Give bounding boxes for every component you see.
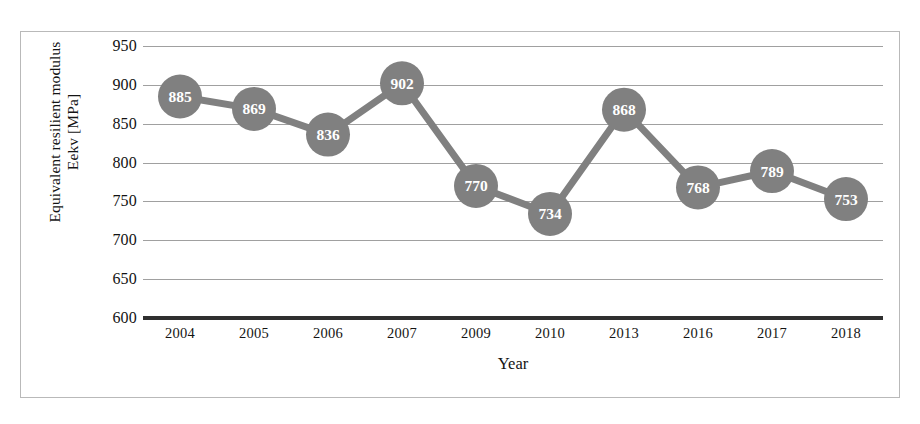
data-point-label: 734 <box>538 205 562 222</box>
y-axis-title: Equivalent resilient modulus Eekv [MPa] <box>42 7 86 257</box>
data-point-label: 869 <box>242 100 266 117</box>
plot-area: 885869836902770734868768789753 <box>143 46 883 318</box>
x-tick-label: 2004 <box>145 325 215 342</box>
y-axis-title-line2: Eekv [MPa] <box>64 94 82 170</box>
x-tick-label: 2007 <box>367 325 437 342</box>
y-tick-label: 600 <box>91 309 137 327</box>
data-point-label: 770 <box>464 177 488 194</box>
x-tick-label: 2010 <box>515 325 585 342</box>
x-axis-tick-labels: 2004200520062007200920102013201620172018 <box>143 325 883 351</box>
x-tick-label: 2017 <box>737 325 807 342</box>
y-tick-label: 900 <box>91 76 137 94</box>
data-point-label: 902 <box>390 75 414 92</box>
data-point-label: 789 <box>760 163 784 180</box>
y-axis-tick-labels: 950900850800750700650600 <box>83 46 137 318</box>
figure-frame: Equivalent resilient modulus Eekv [MPa] … <box>20 31 900 398</box>
y-tick-label: 950 <box>91 37 137 55</box>
x-tick-label: 2009 <box>441 325 511 342</box>
data-point-label: 768 <box>686 179 710 196</box>
x-axis-title: Year <box>143 354 883 374</box>
data-point-label: 836 <box>316 126 340 143</box>
data-point-label: 885 <box>168 88 192 105</box>
y-tick-label: 650 <box>91 270 137 288</box>
y-tick-label: 700 <box>91 231 137 249</box>
x-tick-label: 2018 <box>811 325 881 342</box>
line-series: 885869836902770734868768789753 <box>143 46 883 318</box>
x-tick-label: 2016 <box>663 325 733 342</box>
series-line <box>180 83 846 214</box>
y-tick-label: 750 <box>91 192 137 210</box>
x-axis-line <box>143 316 883 320</box>
data-point-label: 868 <box>612 101 636 118</box>
y-tick-label: 800 <box>91 154 137 172</box>
y-axis-title-line1: Equivalent resilient modulus <box>46 41 64 222</box>
x-tick-label: 2006 <box>293 325 363 342</box>
x-tick-label: 2013 <box>589 325 659 342</box>
x-tick-label: 2005 <box>219 325 289 342</box>
data-point-label: 753 <box>834 191 858 208</box>
y-tick-label: 850 <box>91 115 137 133</box>
